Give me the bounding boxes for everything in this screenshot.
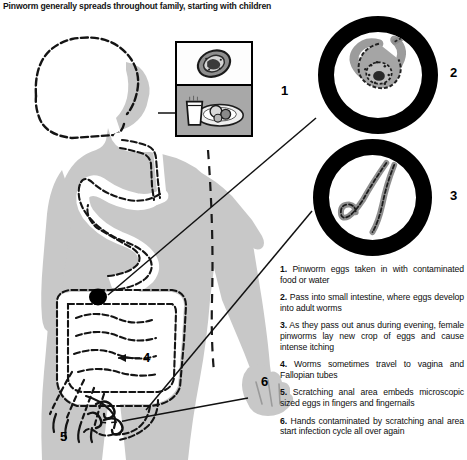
caption-text-5: Scratching anal area embeds microscopic … (280, 387, 464, 408)
inset-photo-box (175, 41, 253, 137)
caption-number-5: 5. (280, 387, 287, 397)
caption-item-2: 2. Pass into small intestine, where eggs… (280, 292, 464, 313)
caption-number-1: 1. (280, 264, 287, 274)
pinworm-egg-micrograph (177, 43, 251, 86)
inset-circle-gravid-worm (318, 16, 438, 134)
caption-item-5: 5. Scratching anal area embeds microscop… (280, 387, 464, 408)
caption-list: 1. Pinworm eggs taken in with contaminat… (280, 264, 464, 437)
contaminated-food-illustration (177, 86, 251, 135)
caption-text-1: Pinworm eggs taken in with contaminated … (280, 264, 464, 285)
caption-text-6: Hands contaminated by scratching anal ar… (280, 416, 464, 437)
caption-item-1: 1. Pinworm eggs taken in with contaminat… (280, 264, 464, 285)
caption-item-3: 3. As they pass out anus during evening,… (280, 320, 464, 352)
callout-number-2: 2 (450, 66, 457, 79)
callout-number-5: 5 (60, 430, 67, 443)
caption-item-4: 4. Worms sometimes travel to vagina and … (280, 359, 464, 380)
callout-number-6: 6 (261, 375, 268, 388)
egg-mass-marker (89, 289, 107, 306)
caption-number-3: 3. (280, 320, 287, 330)
callout-number-4: 4 (143, 351, 150, 364)
caption-number-4: 4. (280, 359, 287, 369)
caption-number-2: 2. (280, 292, 287, 302)
pinworm-lifecycle-illustration: Pinworm generally spreads throughout fam… (0, 0, 467, 460)
caption-number-6: 6. (280, 416, 287, 426)
caption-text-4: Worms sometimes travel to vagina and Fal… (280, 359, 464, 380)
callout-number-1: 1 (281, 84, 288, 97)
caption-item-6: 6. Hands contaminated by scratching anal… (280, 416, 464, 437)
inset-circle-adult-worms (313, 139, 432, 256)
caption-text-2: Pass into small intestine, where eggs de… (280, 292, 464, 313)
caption-text-3: As they pass out anus during evening, fe… (280, 320, 464, 351)
callout-number-3: 3 (450, 189, 457, 202)
